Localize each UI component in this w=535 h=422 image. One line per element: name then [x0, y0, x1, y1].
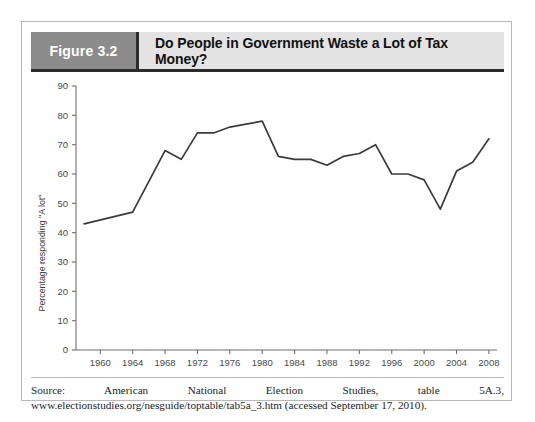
- svg-text:1988: 1988: [316, 357, 337, 368]
- svg-text:20: 20: [57, 286, 68, 297]
- svg-text:1964: 1964: [122, 357, 143, 368]
- svg-text:1972: 1972: [187, 357, 208, 368]
- chart-plot-area: 0102030405060708090 19601964196819721976…: [31, 78, 504, 378]
- svg-text:90: 90: [57, 80, 68, 91]
- svg-text:1992: 1992: [349, 357, 370, 368]
- figure-card: Figure 3.2 Do People in Government Waste…: [21, 21, 512, 401]
- x-axis: 1960196419681972197619801984198819921996…: [76, 350, 499, 368]
- line-chart-svg: 0102030405060708090 19601964196819721976…: [31, 78, 504, 378]
- svg-text:0: 0: [63, 344, 68, 355]
- data-line-series: [84, 121, 489, 224]
- figure-title-label: Do People in Government Waste a Lot of T…: [155, 35, 504, 67]
- svg-text:2008: 2008: [478, 357, 499, 368]
- svg-text:10: 10: [57, 315, 68, 326]
- svg-text:60: 60: [57, 168, 68, 179]
- svg-text:40: 40: [57, 227, 68, 238]
- svg-text:70: 70: [57, 139, 68, 150]
- svg-text:2004: 2004: [446, 357, 467, 368]
- svg-text:30: 30: [57, 256, 68, 267]
- figure-title-block: Do People in Government Waste a Lot of T…: [139, 32, 504, 69]
- svg-text:1960: 1960: [90, 357, 111, 368]
- svg-text:80: 80: [57, 110, 68, 121]
- source-note: Source: American National Election Studi…: [31, 383, 504, 412]
- y-axis: 0102030405060708090: [57, 80, 76, 355]
- svg-text:1980: 1980: [252, 357, 273, 368]
- svg-text:1968: 1968: [154, 357, 175, 368]
- svg-text:1976: 1976: [219, 357, 240, 368]
- figure-number-block: Figure 3.2: [31, 32, 139, 69]
- svg-text:50: 50: [57, 198, 68, 209]
- source-divider: [31, 377, 504, 378]
- svg-text:1996: 1996: [381, 357, 402, 368]
- svg-text:1984: 1984: [284, 357, 305, 368]
- y-axis-title: Percentage responding "A lot": [37, 195, 47, 312]
- figure-number-label: Figure 3.2: [49, 43, 117, 59]
- svg-text:2000: 2000: [414, 357, 435, 368]
- figure-header-bar: Figure 3.2 Do People in Government Waste…: [31, 32, 504, 72]
